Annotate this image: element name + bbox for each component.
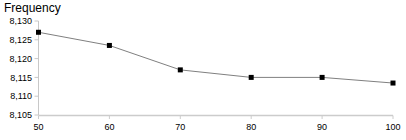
x-tick-label-4: 90	[317, 122, 327, 132]
plot-area: 8,105 8,110 8,115 8,120 8,125 8,130 50 6…	[0, 0, 406, 140]
frequency-line-chart: Frequency 8,105 8,110 8,115 8,120 8,125 …	[0, 0, 406, 140]
y-tick-label-5: 8,130	[9, 16, 32, 26]
data-point-marker	[249, 75, 254, 80]
y-tick-label-3: 8,120	[9, 54, 32, 64]
x-tick-label-5: 100	[385, 122, 400, 132]
x-tick-label-1: 60	[104, 122, 114, 132]
x-tick-label-3: 80	[246, 122, 256, 132]
x-tick-label-0: 50	[33, 122, 43, 132]
y-tick-label-4: 8,125	[9, 35, 32, 45]
y-tick-label-2: 8,115	[10, 73, 32, 83]
data-point-marker	[320, 75, 325, 80]
data-point-marker	[391, 81, 396, 86]
y-axis-ticks	[35, 21, 39, 115]
data-point-marker	[107, 43, 112, 48]
x-axis-group: 50 60 70 80 90 100	[33, 116, 400, 133]
data-point-marker	[36, 30, 41, 35]
y-tick-label-0: 8,105	[9, 110, 32, 120]
data-point-marker	[178, 67, 183, 72]
y-axis-group: 8,105 8,110 8,115 8,120 8,125 8,130	[9, 16, 38, 120]
y-tick-label-1: 8,110	[10, 91, 32, 101]
x-tick-label-2: 70	[175, 122, 185, 132]
series-markers-frequency	[36, 30, 396, 86]
series-line-frequency	[39, 32, 394, 83]
